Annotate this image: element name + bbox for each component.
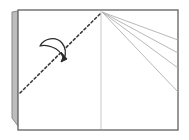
diagram-canvas — [0, 0, 189, 140]
origami-fold-diagram — [0, 0, 189, 140]
paper-sheet-shape — [18, 10, 178, 130]
back-flap-shape — [12, 11, 18, 126]
